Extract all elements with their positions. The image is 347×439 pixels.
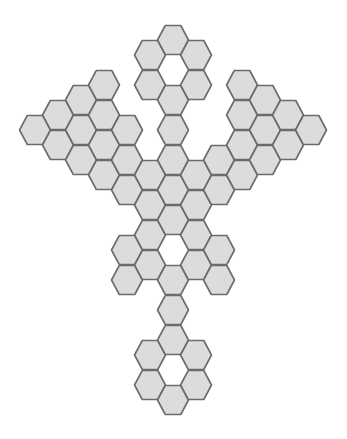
hexagon-tile — [89, 71, 120, 100]
hexagon-tile — [181, 41, 212, 70]
hexagon-tile — [296, 116, 327, 145]
hexagon-figure — [0, 0, 347, 439]
hexagon-tile — [181, 371, 212, 400]
hexagon-tile — [158, 296, 189, 325]
hexagon-tile — [112, 116, 143, 145]
hexagon-tiling — [0, 0, 347, 439]
hexagon-tile — [181, 341, 212, 370]
hexagon-tile — [158, 116, 189, 145]
hexagon-tile — [181, 71, 212, 100]
hexagon-tile — [204, 236, 235, 265]
hexagon-tile — [204, 266, 235, 295]
